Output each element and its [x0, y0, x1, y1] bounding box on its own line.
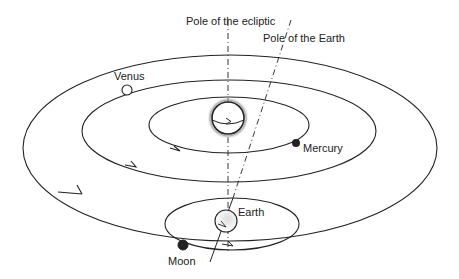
earth-icon: [215, 210, 237, 232]
label-earth: Earth: [238, 207, 264, 218]
solar-system-diagram: [0, 0, 459, 279]
label-mercury: Mercury: [303, 143, 343, 154]
sun-icon: [207, 97, 249, 139]
mercury-icon: [292, 139, 300, 147]
orbit-direction-arrows: [58, 146, 180, 194]
moon-icon: [178, 240, 188, 250]
label-pole-ecliptic: Pole of the ecliptic: [186, 16, 275, 27]
label-pole-earth: Pole of the Earth: [263, 33, 345, 44]
venus-icon: [122, 85, 132, 95]
label-venus: Venus: [114, 71, 145, 82]
moon-orbit-arrow: [222, 241, 233, 246]
label-moon: Moon: [168, 256, 196, 267]
